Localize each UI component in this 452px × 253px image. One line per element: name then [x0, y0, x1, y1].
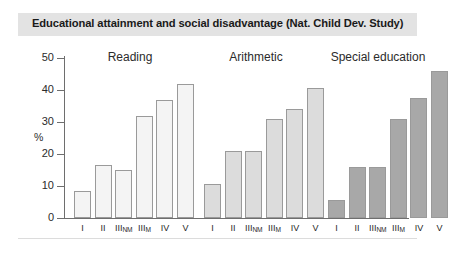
y-axis-tick — [57, 218, 64, 219]
bar — [136, 116, 153, 218]
bottom-divider — [18, 238, 417, 239]
bar-slot — [95, 36, 112, 218]
bar-slot — [349, 36, 366, 218]
bar-slot — [136, 36, 153, 218]
plot-area: 01020304050 % ReadingArithmeticSpecial e… — [18, 36, 417, 238]
bar-slot — [177, 36, 194, 218]
bars-layer — [18, 36, 417, 218]
bar-slot — [156, 36, 173, 218]
bar-slot — [204, 36, 221, 218]
bar — [410, 98, 427, 218]
bar — [156, 100, 173, 218]
bar — [286, 109, 303, 218]
bar — [349, 167, 366, 218]
bar-slot — [390, 36, 407, 218]
category-label: V — [172, 223, 200, 233]
bar — [245, 151, 262, 218]
bar — [225, 151, 242, 218]
bar-slot — [245, 36, 262, 218]
bar — [431, 71, 448, 218]
bar — [369, 167, 386, 218]
bar-slot — [369, 36, 386, 218]
bar-slot — [286, 36, 303, 218]
bar — [74, 191, 91, 218]
bar-slot — [266, 36, 283, 218]
bar-slot — [225, 36, 242, 218]
bar-slot — [115, 36, 132, 218]
bar — [177, 84, 194, 218]
bar — [95, 165, 112, 218]
bar-slot — [410, 36, 427, 218]
bar — [328, 200, 345, 218]
bar-slot — [307, 36, 324, 218]
bar — [115, 170, 132, 218]
bar — [204, 184, 221, 218]
x-axis-line — [64, 218, 409, 219]
bar-slot — [328, 36, 345, 218]
title-band: Educational attainment and social disadv… — [18, 13, 417, 36]
bar-slot — [74, 36, 91, 218]
bar — [266, 119, 283, 218]
category-label: V — [426, 223, 452, 233]
chart-title: Educational attainment and social disadv… — [32, 17, 403, 29]
bar — [307, 88, 324, 218]
bar-slot — [431, 36, 448, 218]
bar — [390, 119, 407, 218]
